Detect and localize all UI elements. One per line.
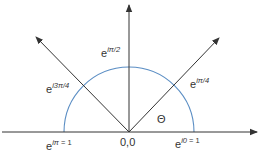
label-e-i-pi-over-2: eiπ/2 bbox=[101, 45, 121, 59]
label-e-i-0: ei0 = 1 bbox=[175, 136, 200, 150]
label-e-i-pi: eiπ = 1 bbox=[46, 138, 72, 152]
label-theta: Θ bbox=[157, 113, 166, 125]
ray-pi-over-4 bbox=[129, 38, 219, 132]
label-e-i-pi-over-4: eiπ/4 bbox=[190, 76, 209, 90]
label-e-i-3pi-over-4: ei3π/4 bbox=[46, 81, 69, 95]
label-origin: 0,0 bbox=[120, 136, 135, 148]
unit-circle-diagram: eiπ/2 eiπ/4 ei3π/4 eiπ = 1 ei0 = 1 0,0 Θ bbox=[0, 0, 267, 155]
